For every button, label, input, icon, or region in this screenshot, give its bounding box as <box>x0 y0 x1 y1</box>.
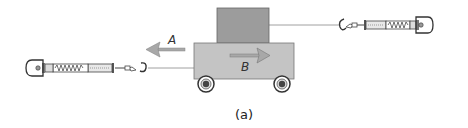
left-hook-icon <box>140 63 146 72</box>
right-spring-scale <box>340 17 434 33</box>
arrow-a-left-icon <box>146 42 185 57</box>
diagram-canvas <box>0 0 468 128</box>
diagram-figure: A B (a) <box>0 0 468 128</box>
right-hook-icon <box>340 19 347 30</box>
wheel-right <box>274 76 290 92</box>
wheel-left <box>198 76 214 92</box>
label-a: A <box>168 34 176 46</box>
block <box>217 8 269 43</box>
left-spring-scale <box>26 60 146 76</box>
figure-caption: (a) <box>235 108 253 121</box>
label-b: B <box>241 61 249 73</box>
